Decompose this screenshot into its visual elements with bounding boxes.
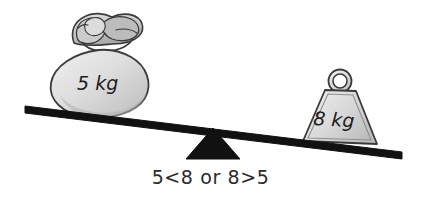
weight-group-8kg: 8 kg <box>303 70 377 145</box>
sack-gathered-top <box>72 14 142 52</box>
sack-group-5kg: 5 kg <box>51 14 149 119</box>
comparison-caption: 5<8 or 8>5 <box>0 166 421 188</box>
balance-scale-illustration: 5 kg 8 kg 5<8 or 8>5 <box>0 0 421 204</box>
sack-fold-center <box>85 18 106 36</box>
sack-weight-label: 5 kg <box>77 72 118 94</box>
weight-ring-inner <box>333 74 347 88</box>
weight-weight-label: 8 kg <box>313 107 355 131</box>
